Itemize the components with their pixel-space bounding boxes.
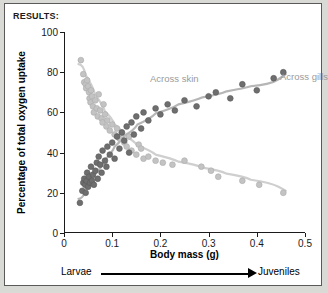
- y-axis-tick: [60, 72, 64, 73]
- data-point: [109, 122, 115, 128]
- data-point: [117, 146, 123, 152]
- data-point: [182, 97, 188, 103]
- y-axis-tick-label: 20: [47, 187, 58, 198]
- data-points-across-gills: [77, 69, 286, 205]
- y-axis-tick-label: 40: [47, 147, 58, 158]
- x-axis-title: Body mass (g): [64, 249, 305, 260]
- data-point: [227, 95, 233, 101]
- data-point: [153, 158, 159, 164]
- data-point: [158, 112, 164, 118]
- results-figure-panel: RESULTS: Across skin Across gills 020406…: [4, 3, 322, 286]
- data-point: [206, 93, 212, 99]
- data-point: [182, 158, 188, 164]
- larvae-label: Larvae: [61, 266, 92, 277]
- data-point: [84, 77, 90, 83]
- data-point: [198, 164, 204, 170]
- data-point: [254, 87, 260, 93]
- data-point: [97, 162, 103, 168]
- stage-arrow-head-icon: [248, 268, 257, 278]
- data-point: [133, 114, 139, 120]
- data-point: [133, 152, 139, 158]
- data-point: [129, 120, 135, 126]
- data-point: [107, 152, 113, 158]
- data-point: [88, 87, 94, 93]
- data-point: [131, 132, 137, 138]
- data-point: [104, 164, 110, 170]
- data-point: [215, 174, 221, 180]
- data-point: [77, 200, 83, 206]
- data-point: [99, 170, 105, 176]
- data-point: [239, 81, 245, 87]
- data-point: [239, 178, 245, 184]
- results-heading: RESULTS:: [13, 11, 59, 21]
- x-axis-tick: [112, 233, 113, 237]
- data-point: [104, 118, 110, 124]
- data-point: [170, 162, 176, 168]
- data-point: [80, 71, 86, 77]
- x-axis-tick-label: 0: [61, 238, 67, 249]
- data-point: [92, 168, 98, 174]
- data-point: [95, 176, 101, 182]
- y-axis-tick-label: 100: [41, 27, 58, 38]
- data-point: [119, 130, 125, 136]
- data-point: [83, 190, 89, 196]
- plot-area: [64, 32, 305, 233]
- y-axis-tick: [60, 193, 64, 194]
- x-axis-tick: [64, 233, 65, 237]
- data-point: [172, 107, 178, 113]
- data-point: [107, 128, 113, 134]
- y-axis-tick: [60, 153, 64, 154]
- series-label-across-skin: Across skin: [150, 73, 199, 84]
- y-axis-tick-label: 0: [52, 228, 58, 239]
- x-axis-tick: [160, 233, 161, 237]
- data-point: [126, 150, 132, 156]
- x-axis-tick-label: 0.5: [298, 238, 312, 249]
- data-point: [256, 182, 262, 188]
- x-axis-tick-label: 0.2: [153, 238, 167, 249]
- data-point: [165, 101, 171, 107]
- data-point: [96, 154, 102, 160]
- developmental-stage-annotation: Larvae Juveniles: [5, 266, 323, 282]
- juveniles-label: Juveniles: [258, 266, 300, 277]
- data-point: [138, 146, 144, 152]
- x-axis-tick: [257, 233, 258, 237]
- y-axis-tick: [60, 112, 64, 113]
- data-point: [91, 182, 97, 188]
- data-point: [104, 144, 110, 150]
- data-point: [145, 118, 151, 124]
- data-point: [102, 158, 108, 164]
- data-point: [114, 134, 120, 140]
- data-point: [121, 138, 127, 144]
- x-axis-tick: [305, 233, 306, 237]
- data-point: [78, 57, 84, 63]
- data-point: [112, 156, 118, 162]
- y-axis-tick-label: 60: [47, 107, 58, 118]
- data-point: [124, 124, 130, 130]
- data-point: [208, 168, 214, 174]
- data-point: [153, 105, 159, 111]
- data-point: [271, 75, 277, 81]
- data-point: [100, 148, 106, 154]
- chart-canvas: [64, 32, 305, 233]
- y-axis-title: Percentage of total oxygen uptake: [15, 32, 29, 233]
- x-axis-tick-label: 0.1: [105, 238, 119, 249]
- data-point: [96, 91, 102, 97]
- data-point: [97, 107, 103, 113]
- data-point: [92, 97, 98, 103]
- data-point: [114, 126, 120, 132]
- data-point: [109, 140, 115, 146]
- data-point: [141, 110, 147, 116]
- data-point: [101, 101, 107, 107]
- stage-arrow-shaft: [101, 273, 249, 275]
- data-point: [145, 154, 151, 160]
- series-label-across-gills: Across gills: [280, 71, 328, 82]
- x-axis-tick-label: 0.3: [202, 238, 216, 249]
- x-axis-tick: [209, 233, 210, 237]
- data-point: [102, 112, 108, 118]
- data-point: [138, 126, 144, 132]
- data-point: [124, 144, 130, 150]
- data-point: [280, 190, 286, 196]
- data-point: [194, 103, 200, 109]
- y-axis-tick: [60, 32, 64, 33]
- x-axis-tick-label: 0.4: [250, 238, 264, 249]
